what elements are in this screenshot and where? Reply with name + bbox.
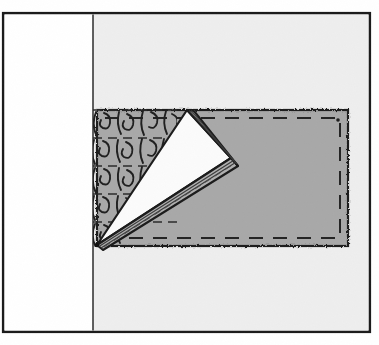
paper-grain (0, 0, 379, 345)
folded-fabric-corner-diagram (0, 0, 379, 345)
figure-root (0, 0, 379, 345)
